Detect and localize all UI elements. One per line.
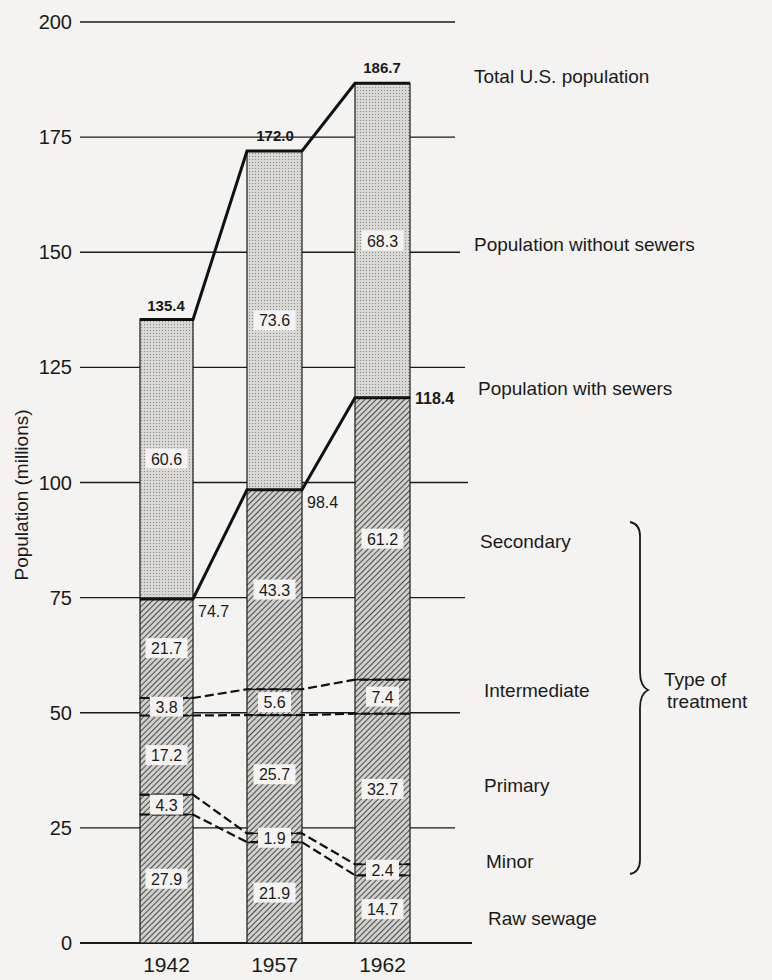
y-tick-label: 50 <box>50 702 72 724</box>
y-tick-label: 200 <box>39 11 72 33</box>
total-value-label: 186.7 <box>363 59 401 76</box>
brace-icon <box>630 522 648 874</box>
x-tick-label: 1957 <box>251 953 298 976</box>
segment-value-label: 21.7 <box>151 640 182 657</box>
total-value-label: 172.0 <box>256 127 294 144</box>
y-tick-label: 25 <box>50 817 72 839</box>
segment-value-label: 32.7 <box>367 781 398 798</box>
y-axis-label: Population (millions) <box>11 409 32 580</box>
legend-minor: Minor <box>486 851 534 872</box>
segment-value-label: 43.3 <box>259 582 290 599</box>
x-tick-label: 1942 <box>143 953 190 976</box>
legend-intermediate: Intermediate <box>484 680 590 701</box>
brace-label-line2: treatment <box>667 691 748 712</box>
segment-value-label: 21.9 <box>259 885 290 902</box>
brace-label-line1: Type of <box>664 669 727 690</box>
legend-raw-sewage: Raw sewage <box>488 908 597 929</box>
legend-total: Total U.S. population <box>474 66 649 87</box>
y-tick-label: 150 <box>39 241 72 263</box>
total-value-label: 135.4 <box>147 297 185 314</box>
segment-value-label: 3.8 <box>155 699 177 716</box>
legend-without-sewers: Population without sewers <box>474 234 695 255</box>
sewer-value-label: 118.4 <box>415 390 454 407</box>
segment-value-label: 5.6 <box>263 694 285 711</box>
segment-value-label: 68.3 <box>367 233 398 250</box>
y-tick-label: 175 <box>39 126 72 148</box>
y-tick-label: 75 <box>50 587 72 609</box>
y-tick-label: 0 <box>61 932 72 954</box>
x-tick-label: 1962 <box>359 953 406 976</box>
y-tick-label: 125 <box>39 356 72 378</box>
legend-primary: Primary <box>484 775 550 796</box>
segment-value-label: 1.9 <box>263 830 285 847</box>
segment-value-label: 4.3 <box>155 797 177 814</box>
segment-value-label: 14.7 <box>367 901 398 918</box>
segment-value-label: 73.6 <box>259 312 290 329</box>
segment-value-label: 27.9 <box>151 871 182 888</box>
segment-value-label: 2.4 <box>371 862 393 879</box>
segment-value-label: 25.7 <box>259 766 290 783</box>
segment-value-label: 7.4 <box>371 689 393 706</box>
legend-secondary: Secondary <box>480 531 571 552</box>
segment-value-label: 17.2 <box>151 747 182 764</box>
sewer-value-label: 98.4 <box>307 494 338 511</box>
legend-with-sewers: Population with sewers <box>478 378 672 399</box>
segment-value-label: 61.2 <box>367 531 398 548</box>
stacked-bar-chart: 0255075100125150175200Population (millio… <box>0 0 772 980</box>
segment-value-label: 60.6 <box>151 451 182 468</box>
y-tick-label: 100 <box>39 472 72 494</box>
sewer-value-label: 74.7 <box>198 603 229 620</box>
